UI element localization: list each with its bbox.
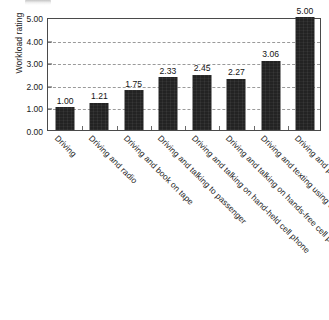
bars: 1.001.211.752.332.452.273.065.00 xyxy=(48,19,320,130)
bar xyxy=(193,75,212,130)
bar-value-label: 3.06 xyxy=(262,49,279,59)
bar-value-label: 2.33 xyxy=(160,66,177,76)
x-axis-category-label: Driving xyxy=(53,133,79,159)
y-axis-tick-label: 4.00 xyxy=(26,37,43,47)
bar xyxy=(158,77,177,130)
y-axis-tick-label: 1.00 xyxy=(26,104,43,114)
bar xyxy=(124,90,143,130)
y-axis-tick-label: 3.00 xyxy=(26,59,43,69)
x-axis-category-label: Driving and book on tape xyxy=(122,133,196,207)
bar-slot: 2.27 xyxy=(219,19,253,130)
bar-slot: 2.45 xyxy=(185,19,219,130)
bar-slot: 3.06 xyxy=(254,19,288,130)
y-axis-tick-label: 5.00 xyxy=(26,14,43,24)
bar-value-label: 5.00 xyxy=(297,6,314,16)
bar-slot: 5.00 xyxy=(288,19,322,130)
bar xyxy=(261,61,280,130)
bar-slot: 2.33 xyxy=(151,19,185,130)
bar-value-label: 2.45 xyxy=(194,63,211,73)
x-axis-tick-mark xyxy=(254,126,255,130)
bar-value-label: 1.00 xyxy=(57,96,74,106)
bar xyxy=(227,79,246,130)
y-axis-tick-label: 2.00 xyxy=(26,82,43,92)
bar xyxy=(90,103,109,130)
y-axis-title: Workload rating xyxy=(14,0,24,98)
x-axis-tick-mark xyxy=(82,126,83,130)
bar-slot: 1.75 xyxy=(117,19,151,130)
cropped-element-artifact xyxy=(25,0,51,5)
x-axis-tick-mark xyxy=(219,126,220,130)
x-axis-category-labels: DrivingDriving and radioDriving and book… xyxy=(47,133,321,313)
bar-value-label: 1.21 xyxy=(91,91,108,101)
bar-slot: 1.21 xyxy=(82,19,116,130)
x-axis-tick-mark xyxy=(185,126,186,130)
plot-area: 0.001.002.003.004.005.00 1.001.211.752.3… xyxy=(47,18,321,131)
x-axis-category-label: Driving and talking on hand-held cell ph… xyxy=(190,133,312,255)
bar xyxy=(295,17,314,130)
y-axis-tick-label: 0.00 xyxy=(26,127,43,137)
bar-chart-figure: Workload rating 0.001.002.003.004.005.00… xyxy=(0,0,329,320)
bar-value-label: 2.27 xyxy=(228,67,245,77)
bar xyxy=(56,107,75,130)
bar-slot: 1.00 xyxy=(48,19,82,130)
x-axis-tick-mark xyxy=(151,126,152,130)
x-axis-tick-mark xyxy=(117,126,118,130)
bar-value-label: 1.75 xyxy=(125,79,142,89)
x-axis-tick-mark xyxy=(288,126,289,130)
